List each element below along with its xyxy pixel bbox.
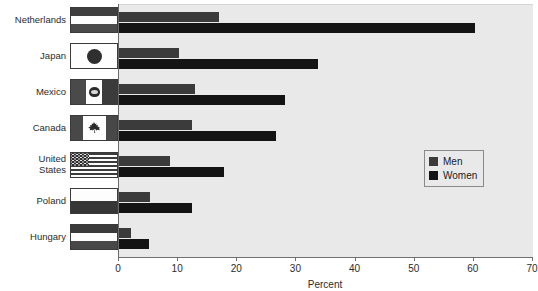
legend-swatch-women: [429, 171, 438, 180]
axis-tick-label-60: 60: [467, 263, 478, 274]
axis-title: Percent: [118, 279, 532, 290]
bar-women-poland: [119, 203, 192, 213]
bar-women-hungary: [119, 239, 149, 249]
bar-women-netherlands: [119, 23, 475, 33]
category-label-hungary: Hungary: [30, 232, 70, 243]
category-row-poland: Poland: [0, 185, 118, 217]
category-label-canada: Canada: [33, 123, 70, 134]
axis-tick-label-50: 50: [408, 263, 419, 274]
canada-flag-icon: [70, 115, 118, 141]
axis-tick-70: [532, 257, 533, 261]
value-axis: 010203040506070 Percent: [118, 257, 532, 291]
bar-women-mexico: [119, 95, 285, 105]
legend-label-women: Women: [443, 170, 477, 181]
axis-tick-label-0: 0: [115, 263, 121, 274]
mexico-flag-icon: [70, 79, 118, 105]
category-label-mexico: Mexico: [36, 87, 70, 98]
hungary-flag-icon: [70, 224, 118, 250]
united-states-flag-icon: [70, 152, 118, 178]
category-row-mexico: Mexico: [0, 76, 118, 108]
axis-tick-50: [414, 257, 415, 261]
category-row-united-states: United States: [0, 149, 118, 181]
plot-top-border: [119, 4, 533, 5]
bar-women-united-states: [119, 167, 224, 177]
plot-area: [118, 4, 533, 257]
bar-women-canada: [119, 131, 276, 141]
axis-tick-label-20: 20: [231, 263, 242, 274]
axis-line: [118, 257, 532, 258]
legend-label-men: Men: [443, 156, 462, 167]
category-axis: Netherlands Japan Mexico Canada: [0, 0, 118, 257]
maple-leaf-icon: [87, 120, 101, 136]
axis-tick-label-70: 70: [526, 263, 537, 274]
axis-tick-label-10: 10: [172, 263, 183, 274]
bar-men-mexico: [119, 84, 195, 94]
axis-tick-0: [118, 257, 119, 261]
category-row-netherlands: Netherlands: [0, 4, 118, 36]
legend-swatch-men: [429, 157, 438, 166]
category-label-poland: Poland: [36, 196, 70, 207]
axis-tick-label-40: 40: [349, 263, 360, 274]
bar-men-hungary: [119, 228, 131, 238]
axis-tick-10: [177, 257, 178, 261]
bar-men-united-states: [119, 156, 170, 166]
japan-flag-icon: [70, 43, 118, 69]
bar-men-poland: [119, 192, 150, 202]
axis-tick-30: [295, 257, 296, 261]
category-label-netherlands: Netherlands: [15, 15, 70, 26]
category-row-hungary: Hungary: [0, 221, 118, 253]
axis-tick-60: [473, 257, 474, 261]
legend: Men Women: [424, 150, 484, 187]
axis-tick-label-30: 30: [290, 263, 301, 274]
legend-item-women[interactable]: Women: [429, 168, 477, 182]
bar-men-canada: [119, 120, 192, 130]
bar-men-japan: [119, 48, 179, 58]
axis-tick-40: [355, 257, 356, 261]
bar-men-netherlands: [119, 12, 219, 22]
bar-women-japan: [119, 59, 318, 69]
axis-tick-20: [236, 257, 237, 261]
netherlands-flag-icon: [70, 7, 118, 33]
category-row-canada: Canada: [0, 112, 118, 144]
category-label-japan: Japan: [40, 51, 70, 62]
legend-item-men[interactable]: Men: [429, 154, 477, 168]
category-row-japan: Japan: [0, 40, 118, 72]
category-label-united-states: United States: [39, 154, 70, 175]
poland-flag-icon: [70, 188, 118, 214]
